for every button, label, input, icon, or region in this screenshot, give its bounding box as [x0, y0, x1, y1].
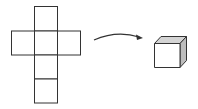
net-square-left: [12, 31, 35, 55]
cube-front-face: [155, 44, 181, 68]
net-square-bottom: [35, 79, 58, 103]
fold-arrow: [94, 34, 143, 40]
arrow-head-icon: [136, 35, 143, 41]
net-square-top: [35, 7, 58, 32]
net-to-cube-diagram: [0, 0, 198, 109]
cube: [155, 37, 187, 68]
net-square-lower: [35, 55, 58, 79]
net-square-right: [58, 31, 81, 55]
arrow-curve: [94, 34, 139, 40]
cube-net: [12, 7, 81, 104]
net-square-center: [35, 31, 58, 55]
